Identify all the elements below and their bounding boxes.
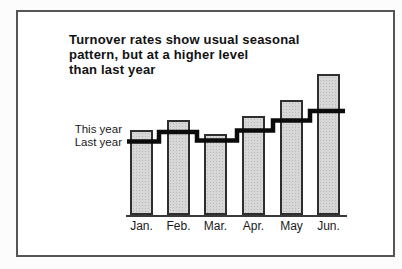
bar-may xyxy=(280,100,303,215)
bar-apr xyxy=(242,116,265,215)
last-year-label: Last year xyxy=(46,136,122,149)
scanned-figure: Turnover rates show usual seasonal patte… xyxy=(0,0,402,269)
this-year-label: This year xyxy=(46,123,122,136)
chart-title: Turnover rates show usual seasonal patte… xyxy=(69,32,349,77)
chart-title-line-3: than last year xyxy=(69,62,349,77)
x-tick-jun: Jun. xyxy=(309,219,349,233)
last-year-line xyxy=(127,111,345,142)
series-labels: This year Last year xyxy=(46,123,122,148)
bar-mar xyxy=(204,134,227,215)
chart-title-line-1: Turnover rates show usual seasonal xyxy=(69,32,349,47)
bar-jun xyxy=(317,74,340,215)
x-tick-may: May xyxy=(272,219,312,233)
chart-frame: Turnover rates show usual seasonal patte… xyxy=(16,10,395,257)
chart-title-line-2: pattern, but at a higher level xyxy=(69,47,349,62)
bar-jan xyxy=(130,130,153,215)
x-tick-feb: Feb. xyxy=(159,219,199,233)
x-axis xyxy=(126,215,347,217)
x-tick-jan: Jan. xyxy=(122,219,162,233)
x-tick-mar: Mar. xyxy=(196,219,236,233)
bar-feb xyxy=(167,120,190,215)
x-tick-apr: Apr. xyxy=(234,219,274,233)
